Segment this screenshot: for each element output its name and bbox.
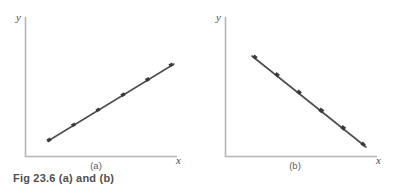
figure-caption: Fig 23.6 (a) and (b) bbox=[13, 172, 114, 184]
panel-b-y-axis-label: y bbox=[215, 11, 221, 23]
panel-a-caption-label: (a) bbox=[90, 160, 102, 171]
panel-b-trend-line bbox=[252, 56, 366, 147]
panel-a-y-axis-label: y bbox=[15, 11, 21, 23]
panel-a-trend-line bbox=[48, 64, 174, 141]
panel-a-x-axis-label: x bbox=[175, 154, 181, 166]
figure-page: y x (a) y x (b) bbox=[0, 0, 399, 193]
panel-a: y x (a) bbox=[15, 11, 181, 171]
panel-b-x-axis-label: x bbox=[375, 154, 381, 166]
figure-canvas: y x (a) y x (b) bbox=[0, 0, 399, 193]
panel-b-caption-label: (b) bbox=[289, 160, 301, 171]
panel-b: y x (b) bbox=[215, 11, 381, 171]
